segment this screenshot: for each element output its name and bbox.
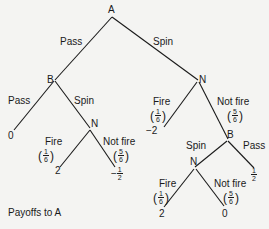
edge-n1-notfire <box>199 82 228 139</box>
prob-n2-notfire: (56) <box>113 148 129 163</box>
label-n3-fire: Fire <box>159 179 176 189</box>
payoff-n3-notfire: 0 <box>222 209 228 219</box>
node-b2: B <box>227 130 234 140</box>
label-a-spin: Spin <box>153 37 173 47</box>
prob-n2-fire: (16) <box>38 148 54 163</box>
edge-a-pass <box>55 17 112 80</box>
edge-a-spin <box>112 17 198 80</box>
label-b1-pass: Pass <box>8 96 30 106</box>
payoff-b2-pass: 12 <box>251 167 257 182</box>
node-n2: N <box>91 119 98 129</box>
prob-n3-fire: (16) <box>153 190 169 205</box>
node-n1: N <box>199 75 206 85</box>
label-b1-spin: Spin <box>74 96 94 106</box>
payoff-b1-pass: 0 <box>8 131 14 141</box>
label-n1-fire: Fire <box>153 97 170 107</box>
prob-n1-notfire: (56) <box>227 108 243 123</box>
label-n3-notfire: Not fire <box>214 179 246 189</box>
label-b2-pass: Pass <box>243 141 265 151</box>
label-b2-spin: Spin <box>186 141 206 151</box>
label-n2-fire: Fire <box>45 137 62 147</box>
payoff-n3-fire: 2 <box>159 209 165 219</box>
payoff-n2-fire: 2 <box>55 166 61 176</box>
payoff-n1-fire: −2 <box>146 126 157 136</box>
node-n3: N <box>190 157 197 167</box>
edge-n2-fire <box>60 130 90 167</box>
node-a: A <box>108 5 115 15</box>
node-b1: B <box>47 75 54 85</box>
prob-n3-notfire: (56) <box>223 190 239 205</box>
label-n1-notfire: Not fire <box>217 97 249 107</box>
prob-n1-fire: (16) <box>150 108 166 123</box>
label-a-pass: Pass <box>60 37 82 47</box>
label-n2-notfire: Not fire <box>103 137 135 147</box>
payoff-n2-notfire: −12 <box>111 166 123 181</box>
caption-payoffs: Payoffs to A <box>8 208 61 218</box>
